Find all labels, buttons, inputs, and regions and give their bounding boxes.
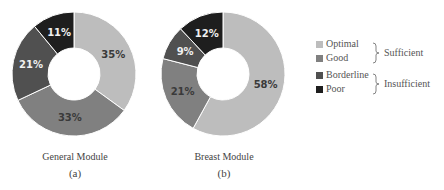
legend-label: Borderline xyxy=(326,69,369,80)
donut-segment-optimal xyxy=(74,12,136,110)
segment-value-label: 58% xyxy=(254,79,278,90)
segment-value-label: 21% xyxy=(171,86,195,97)
legend-label: Poor xyxy=(326,83,345,94)
segment-value-label: 21% xyxy=(19,59,43,70)
panel-label-a: (a) xyxy=(0,167,150,179)
legend-label: Good xyxy=(326,52,348,63)
legend-item-poor: Poor xyxy=(316,83,345,95)
donut-chart-breast: 58%21%9%12% xyxy=(149,0,299,150)
swatch-good-icon xyxy=(316,55,323,62)
segment-value-label: 35% xyxy=(101,49,125,60)
group-label-insufficient: Insufficient xyxy=(384,78,430,89)
segment-value-label: 9% xyxy=(177,46,194,57)
legend-item-optimal: Optimal xyxy=(316,38,359,50)
brace-insufficient-icon xyxy=(372,73,382,95)
caption-breast-module: Breast Module xyxy=(149,151,299,162)
legend-item-borderline: Borderline xyxy=(316,69,369,81)
legend-item-good: Good xyxy=(316,52,348,64)
group-label-sufficient: Sufficient xyxy=(384,47,423,58)
swatch-optimal-icon xyxy=(316,41,323,48)
segment-value-label: 11% xyxy=(47,27,71,38)
segment-value-label: 33% xyxy=(58,112,82,123)
swatch-poor-icon xyxy=(316,86,323,93)
panel-label-b: (b) xyxy=(149,167,299,179)
swatch-borderline-icon xyxy=(316,72,323,79)
legend-label: Optimal xyxy=(326,38,359,49)
segment-value-label: 12% xyxy=(195,28,219,39)
donut-chart-general: 35%33%21%11% xyxy=(0,0,150,150)
caption-general-module: General Module xyxy=(0,151,150,162)
brace-sufficient-icon xyxy=(372,42,382,64)
